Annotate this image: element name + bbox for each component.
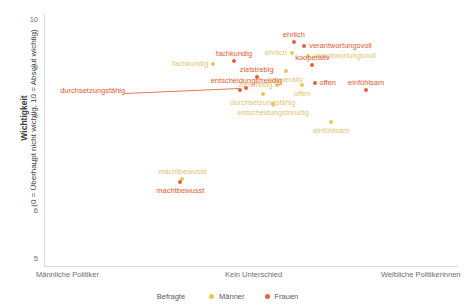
data-point-label: entscheidungsfreudig (238, 108, 309, 117)
data-point-label: einfühlsam (348, 78, 384, 87)
data-point-label: verantwortungsvoll (313, 51, 376, 60)
data-point-label: ehrlich (265, 48, 287, 57)
label-leader-line (125, 88, 240, 94)
data-point[interactable] (284, 69, 288, 73)
data-point-label: fachkundig (172, 59, 208, 68)
data-point[interactable] (329, 120, 333, 124)
x-axis-tick-left: Männliche Politiker (36, 270, 99, 279)
y-axis-line (44, 14, 45, 266)
data-point[interactable] (310, 63, 314, 67)
data-point[interactable] (244, 86, 248, 90)
data-point[interactable] (300, 83, 304, 87)
data-point-label: zielstrebig (240, 65, 274, 74)
y-axis-tick: 7 (18, 158, 38, 167)
y-axis-tick: 9 (18, 63, 38, 72)
data-point[interactable] (261, 92, 265, 96)
data-point[interactable] (178, 180, 182, 184)
data-point-label: kooperativ (268, 75, 303, 84)
y-axis-tick: 10 (18, 15, 38, 24)
data-point-label: kooperativ (295, 53, 330, 62)
data-point-label: machtbewusst (156, 186, 204, 195)
data-point[interactable] (211, 62, 215, 66)
data-point[interactable] (271, 102, 275, 106)
data-point-label: ehrlich (283, 30, 305, 39)
data-point[interactable] (255, 75, 259, 79)
x-axis-line (44, 266, 457, 267)
legend-title: Befragte (157, 292, 185, 301)
plot-area: fachkundigzielstrebigdurchsetzungsfähige… (0, 0, 465, 308)
legend-swatch-maenner-icon (209, 294, 214, 299)
legend-label-maenner: Männer (219, 292, 244, 301)
x-axis-tick-center: Kein Unterschied (225, 270, 282, 279)
data-point-label: offen (294, 89, 311, 98)
data-point[interactable] (232, 59, 236, 63)
data-point-label: durchsetzungsfähig (60, 86, 125, 95)
data-point[interactable] (313, 81, 317, 85)
data-point-label: zielstrebig (239, 80, 273, 89)
legend-swatch-frauen-icon (265, 294, 270, 299)
data-point[interactable] (292, 40, 296, 44)
data-point[interactable] (364, 88, 368, 92)
data-point-label: machtbewusst (158, 167, 206, 176)
data-point-label: einfühlsam (313, 126, 349, 135)
data-point-label: durchsetzungsfähig (230, 98, 295, 107)
data-point[interactable] (275, 83, 279, 87)
data-point[interactable] (290, 51, 294, 55)
legend-item-maenner[interactable]: Männer (209, 292, 244, 301)
data-point-label: verantwortungsvoll (309, 41, 372, 50)
data-point[interactable] (302, 44, 306, 48)
data-point-label: fachkundig (216, 49, 252, 58)
data-point[interactable] (238, 88, 242, 92)
data-point[interactable] (180, 177, 184, 181)
data-point[interactable] (306, 54, 310, 58)
data-point-label: entscheidungsfreudig (211, 76, 282, 85)
data-point-label: offen (320, 78, 337, 87)
y-axis-tick: 8 (18, 111, 38, 120)
x-axis-tick-right: Weibliche Politikerinnen (381, 270, 461, 279)
y-axis-tick: 6 (18, 206, 38, 215)
chart-legend: Befragte Männer Frauen (0, 292, 465, 301)
legend-label-frauen: Frauen (275, 292, 299, 301)
y-axis-tick: 5 (18, 254, 38, 263)
scatter-chart: Wichtigkeit (0 = Überhaupt nicht wichtig… (0, 0, 465, 308)
legend-item-frauen[interactable]: Frauen (265, 292, 299, 301)
